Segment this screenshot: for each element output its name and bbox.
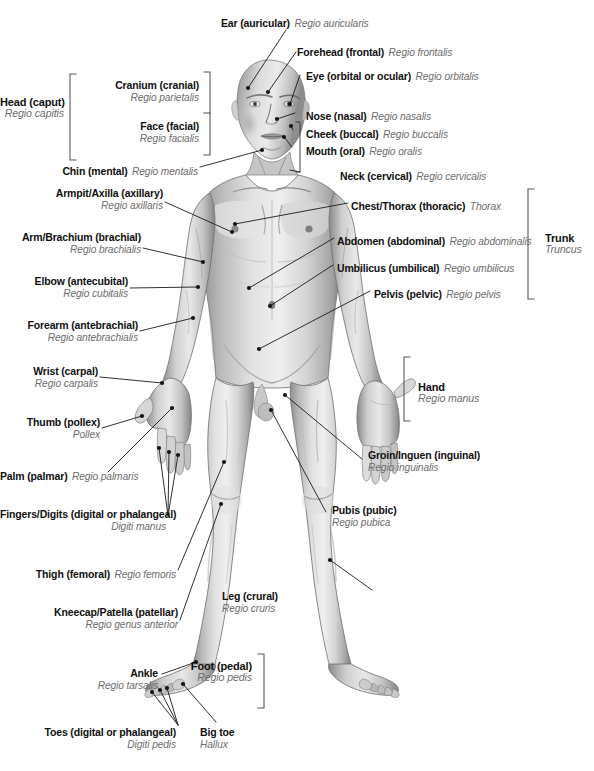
label-bigtoe: Big toe Hallux [200,727,235,750]
label-bigtoe-latin: Hallux [200,739,235,750]
label-umbilicus: Umbilicus (umbilical) Regio umbilicus [337,258,514,276]
label-face-english: Face (facial) [58,121,199,133]
label-thumb-latin: Pollex [0,429,100,440]
label-foot-group: Foot (pedal) Regio pedis [152,660,252,684]
label-cheek: Cheek (buccal) Regio buccalis [306,124,448,142]
label-chin-latin: Regio mentalis [132,166,198,177]
label-armpit: Armpit/Axilla (axillary) Regio axillaris [0,188,163,211]
pelvic-region [254,384,274,421]
label-elbow-english: Elbow (antecubital) [0,276,128,288]
label-chest: Chest/Thorax (thoracic) Thorax [351,196,501,214]
label-cheek-latin: Regio buccalis [383,129,448,140]
label-toes: Toes (digital or phalangeal) Digiti pedi… [0,727,176,750]
label-thigh-latin: Regio femoris [114,569,176,580]
label-cranium: Cranium (cranial) Regio parietalis [58,80,199,103]
left-arm-region [135,193,215,475]
label-elbow-latin: Regio cubitalis [0,288,128,299]
label-groin: Groin/Inguen (inguinal) Regio inguinalis [368,450,480,473]
label-groin-english: Groin/Inguen (inguinal) [368,450,480,462]
label-eye: Eye (orbital or ocular) Regio orbitalis [306,66,479,84]
label-neck-english: Neck (cervical) [340,170,412,182]
label-thumb-english: Thumb (pollex) [0,417,100,429]
label-armpit-english: Armpit/Axilla (axillary) [0,188,163,200]
label-nose-english: Nose (nasal) [306,110,367,122]
label-hand-group: Hand Regio manus [418,381,479,405]
label-eye-english: Eye (orbital or ocular) [306,70,411,82]
label-bigtoe-english: Big toe [200,727,235,739]
label-cranium-latin: Regio parietalis [58,92,199,103]
label-cranium-english: Cranium (cranial) [58,80,199,92]
label-arm: Arm/Brachium (brachial) Regio brachialis [0,232,141,255]
label-cheek-english: Cheek (buccal) [306,128,379,140]
label-pubis-english: Pubis (pubic) [332,505,397,517]
label-ear: Ear (auricular) Regio auricularis [221,13,369,31]
label-mouth-english: Mouth (oral) [306,145,365,157]
label-neck: Neck (cervical) Regio cervicalis [340,166,486,184]
label-umbilicus-latin: Regio umbilicus [444,263,514,274]
label-forearm-english: Forearm (antebrachial) [0,320,138,332]
label-pubis: Pubis (pubic) Regio pubica [332,505,397,528]
label-ear-english: Ear (auricular) [221,17,290,29]
label-arm-english: Arm/Brachium (brachial) [0,232,141,244]
label-neck-latin: Regio cervicalis [416,171,486,182]
label-abdomen-english: Abdomen (abdominal) [337,235,445,247]
label-head-group-latin: Regio capitis [0,108,64,120]
label-pelvis: Pelvis (pelvic) Regio pelvis [374,284,501,302]
label-leg-english: Leg (crural) [222,591,278,603]
label-forearm: Forearm (antebrachial) Regio antebrachia… [0,320,138,343]
label-pelvis-english: Pelvis (pelvic) [374,288,442,300]
label-toes-latin: Digiti pedis [0,739,176,750]
label-face: Face (facial) Regio facialis [58,121,199,144]
label-ankle-latin: Regio tarsalis [0,680,158,691]
label-armpit-latin: Regio axillaris [0,200,163,211]
label-fingers-english: Fingers/Digits (digital or phalangeal) [0,509,166,521]
label-chin-english: Chin (mental) [62,165,127,177]
label-abdomen: Abdomen (abdominal) Regio abdominalis [337,231,532,249]
label-palm: Palm (palmar) Regio palmaris [0,466,106,484]
label-wrist: Wrist (carpal) Regio carpalis [0,366,98,389]
label-pelvis-latin: Regio pelvis [446,289,500,300]
label-nose-latin: Regio nasalis [371,111,431,122]
label-kneecap-english: Kneecap/Patella (patellar) [0,607,178,619]
label-chest-english: Chest/Thorax (thoracic) [351,200,465,212]
label-arm-latin: Regio brachialis [0,244,141,255]
label-nose: Nose (nasal) Regio nasalis [306,106,431,124]
label-thigh-english: Thigh (femoral) [36,568,110,580]
label-forehead-english: Forehead (frontal) [297,46,384,58]
head-region [232,60,310,175]
label-pubis-latin: Regio pubica [332,517,397,528]
label-elbow: Elbow (antecubital) Regio cubitalis [0,276,128,299]
anatomical-regions-diagram: Ear (auricular) Regio auricularis Forehe… [0,0,594,771]
label-thigh: Thigh (femoral) Regio femoris [0,564,176,582]
label-mouth: Mouth (oral) Regio oralis [306,141,422,159]
label-umbilicus-english: Umbilicus (umbilical) [337,262,439,274]
label-mouth-latin: Regio oralis [369,146,422,157]
label-leg: Leg (crural) Regio cruris [222,591,278,614]
label-abdomen-latin: Regio abdominalis [449,236,531,247]
label-forehead: Forehead (frontal) Regio frontalis [297,42,452,60]
label-head-group: Head (caput) Regio capitis [0,96,64,120]
label-ankle-english: Ankle [0,668,158,680]
label-eye-latin: Regio orbitalis [416,71,479,82]
label-ear-latin: Regio auricularis [294,18,368,29]
label-palm-english: Palm (palmar) [0,470,68,482]
label-forehead-latin: Regio frontalis [389,47,453,58]
label-wrist-english: Wrist (carpal) [0,366,98,378]
label-palm-latin: Regio palmaris [72,471,139,482]
label-foot-group-latin: Regio pedis [152,672,252,684]
label-toes-english: Toes (digital or phalangeal) [0,727,176,739]
label-leg-latin: Regio cruris [222,603,278,614]
label-fingers-latin: Digiti manus [0,521,166,532]
label-face-latin: Regio facialis [58,133,199,144]
label-kneecap-latin: Regio genus anterior [0,619,178,630]
torso-region [200,175,344,388]
label-trunk-group: Trunk Truncus [545,232,582,256]
label-thumb: Thumb (pollex) Pollex [0,417,100,440]
label-chest-latin: Thorax [470,201,501,212]
label-wrist-latin: Regio carpalis [0,378,98,389]
label-chin: Chin (mental) Regio mentalis [20,161,198,179]
label-ankle: Ankle Regio tarsalis [0,668,158,691]
label-groin-latin: Regio inguinalis [368,462,480,473]
label-forearm-latin: Regio antebrachialis [0,332,138,343]
label-trunk-group-latin: Truncus [545,244,582,256]
